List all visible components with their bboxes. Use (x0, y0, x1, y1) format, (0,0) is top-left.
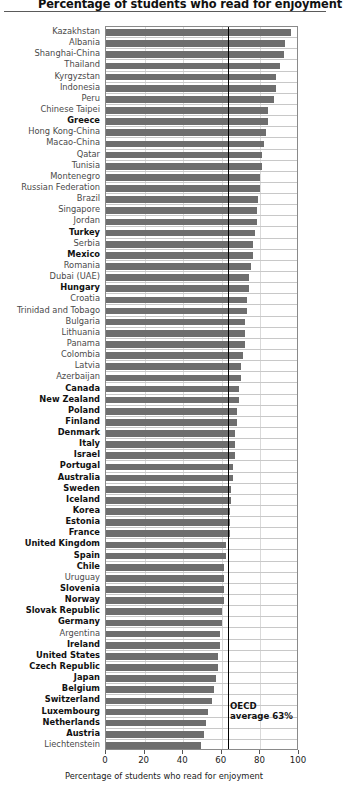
country-label: Poland (68, 406, 100, 415)
bar (106, 252, 253, 259)
bar (106, 297, 247, 304)
bar (106, 118, 268, 125)
country-label: Liechtenstein (44, 740, 100, 749)
bar (106, 464, 233, 471)
chart-row (106, 239, 297, 250)
country-label: Croatia (70, 294, 100, 303)
bar (106, 241, 253, 248)
chart-row (106, 595, 297, 606)
chart-row (106, 227, 297, 238)
chart-row (106, 651, 297, 662)
country-label: Greece (67, 116, 100, 125)
country-label: Qatar (77, 150, 100, 159)
bar (106, 620, 222, 627)
country-label: Belgium (62, 684, 100, 693)
bar (106, 85, 276, 92)
country-label: Lithuania (62, 328, 100, 337)
bar (106, 508, 230, 515)
bar (106, 40, 285, 47)
country-label: Kyrgyzstan (55, 72, 100, 81)
chart-row (106, 428, 297, 439)
chart-row (106, 506, 297, 517)
tick-label-80: 80 (239, 755, 279, 765)
bar (106, 330, 245, 337)
bar-rows (106, 27, 297, 749)
country-label: Japan (74, 673, 100, 682)
chart-row (106, 383, 297, 394)
x-axis-title: Percentage of students who read for enjo… (0, 771, 328, 781)
bar (106, 486, 231, 493)
chart-row (106, 729, 297, 740)
chart-row (106, 606, 297, 617)
bar (106, 375, 241, 382)
bar (106, 174, 260, 181)
bar (106, 386, 239, 393)
tick-mark-80 (259, 750, 260, 754)
bar (106, 709, 208, 716)
tick-mark-100 (298, 750, 299, 754)
chart-row (106, 350, 297, 361)
chart-row (106, 183, 297, 194)
country-label: Netherlands (43, 718, 100, 727)
bar (106, 51, 284, 58)
plot-area (105, 26, 298, 750)
country-label: France (69, 528, 100, 537)
chart-row (106, 740, 297, 750)
country-label: Austria (66, 729, 100, 738)
bar (106, 542, 226, 549)
bar (106, 586, 224, 593)
country-label: Thailand (64, 60, 100, 69)
chart-title: Percentage of students who read for enjo… (38, 0, 347, 11)
chart-row (106, 328, 297, 339)
chart-row (106, 49, 297, 60)
bar (106, 686, 214, 693)
bar (106, 141, 264, 148)
country-label: Israel (74, 450, 100, 459)
chart-row (106, 283, 297, 294)
bar (106, 452, 235, 459)
country-label: Argentina (60, 629, 100, 638)
bar (106, 441, 235, 448)
chart-row (106, 83, 297, 94)
country-label: Finland (65, 417, 100, 426)
tick-label-20: 20 (124, 755, 164, 765)
bar (106, 653, 218, 660)
tick-label-100: 100 (278, 755, 318, 765)
bar (106, 107, 268, 114)
bar (106, 207, 257, 214)
country-label: Switzerland (45, 695, 100, 704)
bar (106, 419, 237, 426)
bar (106, 29, 291, 36)
chart-row (106, 216, 297, 227)
country-label: Spain (74, 551, 100, 560)
bar (106, 152, 262, 159)
country-label: Albania (69, 38, 100, 47)
country-label: Singapore (58, 205, 100, 214)
chart-row (106, 551, 297, 562)
chart-row (106, 305, 297, 316)
bar (106, 196, 258, 203)
chart-row (106, 539, 297, 550)
tick-mark-40 (182, 750, 183, 754)
chart-row (106, 528, 297, 539)
bar (106, 564, 224, 571)
country-label: Romania (64, 261, 100, 270)
chart-row (106, 250, 297, 261)
bar (106, 230, 255, 237)
chart-row (106, 105, 297, 116)
country-label: Tunisia (72, 161, 100, 170)
tick-label-60: 60 (201, 755, 241, 765)
country-label: Panama (67, 339, 100, 348)
country-label: Latvia (75, 361, 100, 370)
chart-row (106, 628, 297, 639)
country-label: Trinidad and Tobago (17, 306, 100, 315)
country-label: Azerbaijan (56, 372, 100, 381)
bar (106, 352, 243, 359)
country-label: Portugal (60, 461, 100, 470)
country-label: Korea (73, 506, 100, 515)
bar (106, 363, 241, 370)
country-label: Uruguay (65, 573, 100, 582)
chart-row (106, 116, 297, 127)
chart-row (106, 361, 297, 372)
